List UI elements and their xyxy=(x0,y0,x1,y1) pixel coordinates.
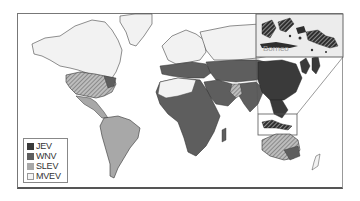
legend-label: WNV xyxy=(36,151,56,161)
legend-item-wnv: WNV xyxy=(27,151,65,161)
legend-item-slev: SLEV xyxy=(27,161,65,171)
southern-europe-wnv xyxy=(160,62,212,78)
legend-item-mvev: MVEV xyxy=(27,171,65,181)
legend-swatch xyxy=(27,173,34,180)
north-america xyxy=(32,20,122,118)
south-america xyxy=(100,116,140,178)
legend-label: MVEV xyxy=(36,171,61,181)
legend-swatch xyxy=(27,143,34,150)
legend-swatch xyxy=(27,163,34,170)
legend: JEV WNV SLEV MVEV xyxy=(23,138,68,183)
east-asia-jev xyxy=(258,60,302,100)
new-zealand xyxy=(312,154,320,170)
legend-label: SLEV xyxy=(36,161,58,171)
southeast-asia xyxy=(270,100,288,118)
northern-europe xyxy=(162,30,206,64)
madagascar xyxy=(222,128,226,142)
korea xyxy=(300,58,310,74)
legend-item-jev: JEV xyxy=(27,141,65,151)
greenland xyxy=(120,14,152,46)
inset-label: Borneo xyxy=(263,44,289,53)
japan xyxy=(312,56,320,74)
indonesia xyxy=(262,120,292,130)
legend-swatch xyxy=(27,153,34,160)
legend-label: JEV xyxy=(36,141,52,151)
